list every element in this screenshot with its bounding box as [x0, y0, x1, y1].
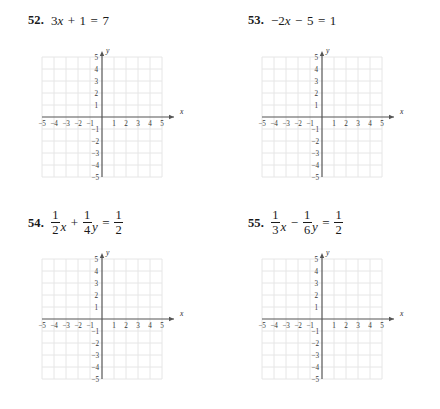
- variable: x: [60, 220, 66, 233]
- fraction-2: 1 6: [303, 209, 312, 237]
- svg-text:5: 5: [160, 322, 164, 330]
- svg-text:−5: −5: [311, 376, 319, 384]
- term-2: 1 4 y: [83, 209, 98, 237]
- x-tick-labels: −5 −4 −3 −2 −1 1 2 3 4 5: [38, 322, 164, 330]
- fraction-1: 1 3: [271, 209, 280, 237]
- svg-text:−1: −1: [91, 328, 99, 336]
- svg-text:−2: −2: [294, 120, 302, 128]
- svg-text:2: 2: [94, 90, 98, 98]
- numerator: 1: [51, 209, 59, 222]
- svg-text:5: 5: [380, 120, 384, 128]
- svg-text:−4: −4: [311, 162, 319, 170]
- y-axis-label: y: [325, 46, 330, 55]
- variable: x: [285, 14, 291, 27]
- svg-text:2: 2: [344, 322, 348, 330]
- y-axis-arrow-icon: [320, 253, 324, 258]
- coordinate-plane[interactable]: −5 −4 −3 −2 −1 1 2 3 4 5 5 4 3 2 1: [248, 247, 428, 397]
- x-axis-label: x: [399, 107, 404, 116]
- term-2: 1 6 y: [303, 209, 318, 237]
- svg-text:−2: −2: [311, 138, 319, 146]
- numerator: 1: [83, 209, 91, 222]
- y-axis-arrow-icon: [320, 51, 324, 56]
- svg-text:−1: −1: [311, 126, 319, 134]
- numerator: 1: [115, 209, 123, 222]
- problem-54-graph[interactable]: −5 −4 −3 −2 −1 1 2 3 4 5 5 4 3 2 1: [28, 247, 208, 397]
- svg-text:3: 3: [136, 120, 140, 128]
- variable: y: [92, 220, 98, 233]
- problem-55-graph[interactable]: −5 −4 −3 −2 −1 1 2 3 4 5 5 4 3 2 1: [248, 247, 428, 397]
- x-axis-arrow-icon: [389, 115, 394, 119]
- svg-text:−2: −2: [91, 340, 99, 348]
- problem-52: 52. 3x + 1 = 7: [0, 0, 220, 204]
- svg-text:5: 5: [314, 54, 318, 62]
- svg-text:3: 3: [94, 280, 98, 288]
- operator: −: [295, 14, 302, 27]
- svg-text:−4: −4: [270, 322, 278, 330]
- svg-text:−5: −5: [38, 120, 46, 128]
- equals-sign: =: [91, 14, 98, 27]
- svg-text:4: 4: [94, 66, 98, 74]
- x-axis-arrow-icon: [389, 317, 394, 321]
- svg-text:−3: −3: [311, 150, 319, 158]
- svg-text:−2: −2: [74, 322, 82, 330]
- svg-text:1: 1: [314, 304, 318, 312]
- equals-sign: =: [102, 216, 109, 229]
- variable: y: [312, 220, 318, 233]
- svg-text:−4: −4: [270, 120, 278, 128]
- svg-text:1: 1: [94, 304, 98, 312]
- variable: x: [280, 220, 286, 233]
- svg-text:2: 2: [314, 90, 318, 98]
- svg-text:1: 1: [112, 120, 116, 128]
- exercise-page: 52. 3x + 1 = 7: [0, 0, 440, 409]
- denominator: 2: [335, 223, 343, 236]
- denominator: 6: [303, 223, 311, 236]
- svg-text:−5: −5: [91, 376, 99, 384]
- svg-text:1: 1: [332, 120, 336, 128]
- coordinate-plane[interactable]: −5 −4 −3 −2 −1 1 2 3 4 5 5 4 3 2 1: [248, 45, 428, 195]
- svg-text:4: 4: [314, 268, 318, 276]
- axis-lines: [262, 253, 394, 379]
- operator: +: [68, 14, 75, 27]
- problem-54-statement: 54. 1 2 x + 1 4 y: [28, 209, 123, 237]
- numerator: 1: [271, 209, 279, 222]
- problem-54: 54. 1 2 x + 1 4 y: [0, 205, 220, 409]
- svg-text:−4: −4: [311, 364, 319, 372]
- y-axis-label: y: [325, 248, 330, 257]
- x-tick-labels: −5 −4 −3 −2 −1 1 2 3 4 5: [258, 322, 384, 330]
- svg-text:4: 4: [368, 120, 372, 128]
- coordinate-plane[interactable]: −5 −4 −3 −2 −1 1 2 3 4 5 5 4 3 2 1: [28, 247, 208, 397]
- term-1: 1 3 x: [271, 209, 286, 237]
- y-axis-label: y: [105, 46, 110, 55]
- constant: 1: [80, 14, 87, 27]
- operator: −: [291, 216, 298, 229]
- svg-text:4: 4: [148, 120, 152, 128]
- fraction-2: 1 4: [83, 209, 92, 237]
- y-tick-labels: 5 4 3 2 1 −1 −2 −3 −4 −5: [311, 256, 319, 385]
- svg-text:1: 1: [112, 322, 116, 330]
- coordinate-plane[interactable]: −5 −4 −3 −2 −1 1 2 3 4 5 5 4 3 2 1: [28, 45, 208, 195]
- numerator: 1: [303, 209, 311, 222]
- svg-text:−2: −2: [294, 322, 302, 330]
- problem-53-graph[interactable]: −5 −4 −3 −2 −1 1 2 3 4 5 5 4 3 2 1: [248, 45, 428, 195]
- svg-text:−5: −5: [91, 174, 99, 182]
- problem-53: 53. −2x − 5 = 1: [220, 0, 440, 204]
- numerator: 1: [335, 209, 343, 222]
- equals-sign: =: [318, 14, 325, 27]
- svg-text:4: 4: [94, 268, 98, 276]
- problem-52-graph[interactable]: −5 −4 −3 −2 −1 1 2 3 4 5 5 4 3 2 1: [28, 45, 208, 195]
- fraction-3: 1 2: [114, 209, 123, 237]
- svg-text:−3: −3: [282, 120, 290, 128]
- svg-text:−2: −2: [311, 340, 319, 348]
- svg-text:3: 3: [356, 322, 360, 330]
- y-axis-arrow-icon: [100, 253, 104, 258]
- right-side: 1: [330, 14, 337, 27]
- svg-text:4: 4: [368, 322, 372, 330]
- svg-text:5: 5: [314, 256, 318, 264]
- fraction-3: 1 2: [334, 209, 343, 237]
- problem-55: 55. 1 3 x − 1 6 y: [220, 205, 440, 409]
- problem-55-number: 55.: [248, 217, 264, 230]
- axis-lines: [42, 51, 174, 177]
- problem-52-statement: 52. 3x + 1 = 7: [28, 14, 109, 27]
- y-tick-labels: 5 4 3 2 1 −1 −2 −3 −4 −5: [91, 256, 99, 385]
- equals-sign: =: [322, 216, 329, 229]
